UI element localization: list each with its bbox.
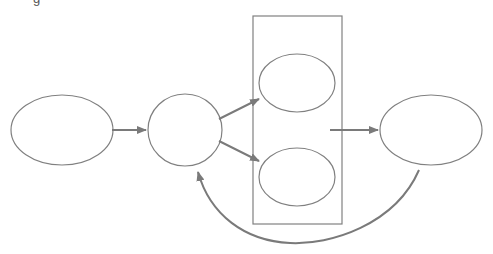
output-ellipse bbox=[380, 95, 482, 165]
diagram-canvas bbox=[0, 0, 493, 254]
hub-circle bbox=[148, 94, 222, 166]
input-ellipse bbox=[11, 95, 113, 165]
arrow-feedback-curve bbox=[198, 170, 419, 243]
lower-ellipse bbox=[259, 148, 335, 206]
upper-ellipse bbox=[259, 54, 335, 112]
